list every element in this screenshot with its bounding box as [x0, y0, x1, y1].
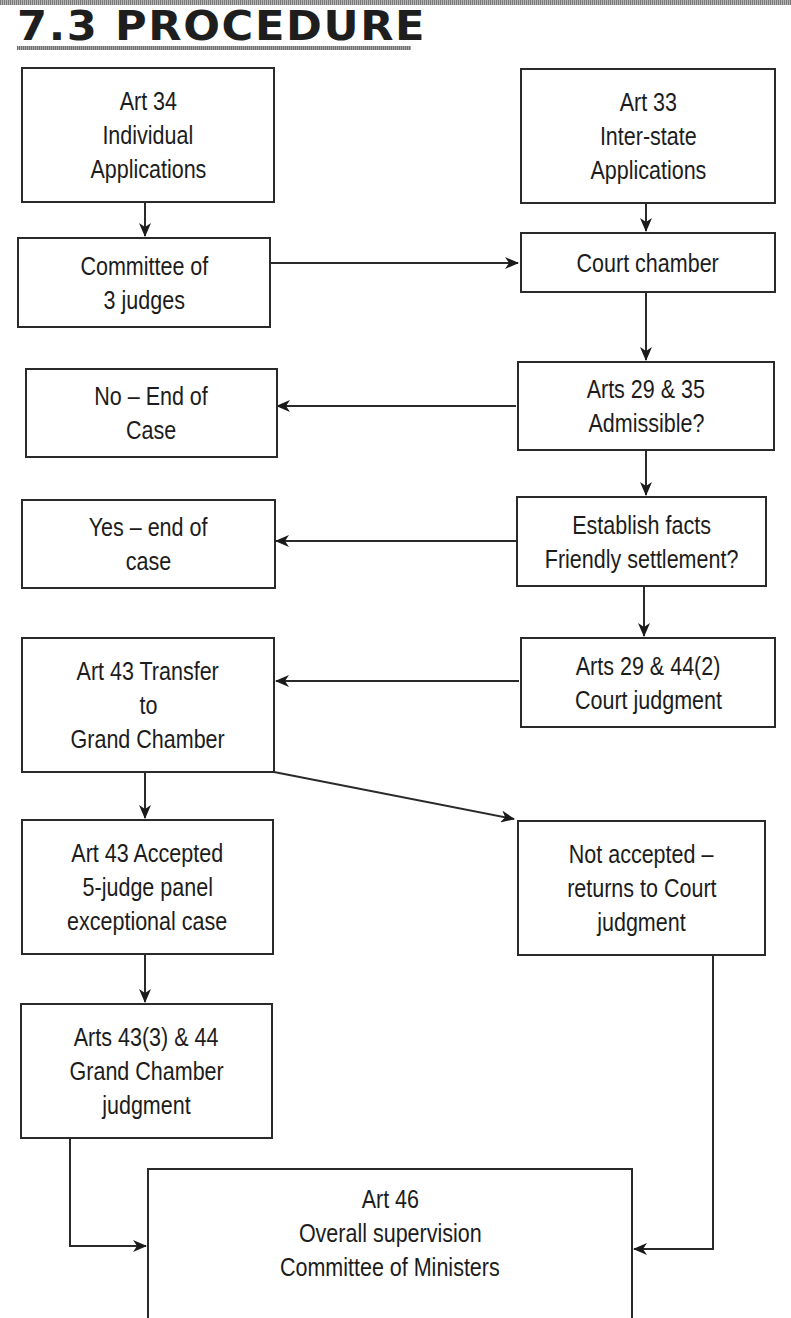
node-line: Committee of [80, 249, 208, 283]
node-line: Committee of Ministers [280, 1250, 500, 1284]
node-line: Art 34 [119, 84, 176, 118]
node-line: 5-judge panel [82, 870, 212, 904]
node-art43-accepted: Art 43 Accepted 5-judge panel exceptiona… [21, 819, 274, 955]
node-court-judgment: Arts 29 & 44(2) Court judgment [520, 637, 776, 728]
node-line: Grand Chamber [69, 1054, 223, 1088]
node-line: Establish facts [572, 508, 711, 542]
node-line: Arts 43(3) & 44 [74, 1020, 219, 1054]
node-art33-inter-state-applications: Art 33 Inter-state Applications [520, 68, 776, 204]
node-court-chamber: Court chamber [520, 232, 776, 293]
node-line: Arts 29 & 44(2) [576, 649, 721, 683]
node-line: Yes – end of [89, 510, 208, 544]
node-line: exceptional case [67, 904, 227, 938]
node-line: to [139, 688, 157, 722]
title-underline [17, 46, 411, 50]
node-line: Court judgment [574, 683, 721, 717]
node-not-accepted: Not accepted – returns to Court judgment [517, 820, 766, 956]
node-art46-committee-of-ministers: Art 46 Overall supervision Committee of … [147, 1168, 633, 1318]
node-line: Art 33 [619, 85, 676, 119]
node-line: case [126, 544, 171, 578]
page-title: 7.3 PROCEDURE [17, 5, 426, 47]
node-line: Art 43 Transfer [77, 654, 219, 688]
node-line: Art 46 [361, 1182, 418, 1216]
node-line: Case [126, 413, 176, 447]
node-committee-of-3-judges: Committee of 3 judges [17, 237, 271, 328]
node-line: Admissible? [588, 406, 704, 440]
node-line: Individual [103, 118, 194, 152]
node-line: Inter-state [600, 119, 697, 153]
node-line: Applications [90, 152, 206, 186]
node-line: No – End of [95, 379, 209, 413]
node-line: Applications [590, 153, 706, 187]
node-line: Art 43 Accepted [72, 836, 224, 870]
node-line: Court chamber [577, 246, 719, 280]
node-no-end-of-case: No – End of Case [25, 368, 278, 458]
edge-not-accepted-art46 [634, 955, 713, 1249]
node-line: 3 judges [103, 283, 184, 317]
node-grand-chamber-judgment: Arts 43(3) & 44 Grand Chamber judgment [20, 1003, 273, 1139]
node-yes-end-of-case: Yes – end of case [21, 499, 276, 589]
edge-grand-judgment-art46 [70, 1138, 146, 1246]
node-line: returns to Court [567, 871, 716, 905]
edge-transfer-not-accepted [274, 772, 514, 819]
node-line: Not accepted – [569, 837, 714, 871]
node-line: judgment [597, 905, 685, 939]
node-line: Grand Chamber [71, 722, 225, 756]
node-art43-transfer: Art 43 Transfer to Grand Chamber [21, 637, 275, 773]
node-line: Arts 29 & 35 [587, 372, 705, 406]
node-line: Friendly settlement? [545, 542, 739, 576]
node-admissible: Arts 29 & 35 Admissible? [517, 361, 775, 451]
node-line: judgment [102, 1088, 190, 1122]
node-line: Overall supervision [299, 1216, 482, 1250]
node-art34-individual-applications: Art 34 Individual Applications [21, 67, 275, 203]
node-establish-facts: Establish facts Friendly settlement? [516, 496, 767, 587]
